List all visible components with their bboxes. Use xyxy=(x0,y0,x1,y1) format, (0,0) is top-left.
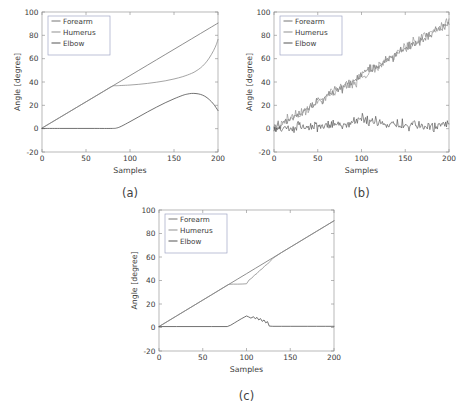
x-tick-label: 200 xyxy=(327,353,341,362)
x-axis-title: Samples xyxy=(113,166,146,175)
x-tick-label: 100 xyxy=(239,353,253,362)
y-tick-label: 0 xyxy=(151,323,156,332)
y-axis-title: Angle [degree] xyxy=(13,53,22,111)
legend-label-forearm: Forearm xyxy=(63,17,93,26)
y-tick-label: 20 xyxy=(146,300,156,309)
legend: ForearmHumerusElbow xyxy=(48,16,110,55)
figure-bottom-caption xyxy=(0,397,463,409)
legend-label-forearm: Forearm xyxy=(180,215,210,224)
legend-label-elbow: Elbow xyxy=(295,39,316,48)
y-tick-label: 0 xyxy=(266,124,271,133)
x-tick-label: 50 xyxy=(81,154,91,163)
x-tick-label: 100 xyxy=(354,154,368,163)
y-tick-label: -20 xyxy=(26,148,38,157)
subplot-caption-b: (b) xyxy=(353,186,369,200)
x-tick-label: 150 xyxy=(398,154,412,163)
y-tick-label: 60 xyxy=(146,253,156,262)
y-tick-label: 100 xyxy=(141,206,155,215)
x-tick-label: 150 xyxy=(167,154,181,163)
subplot-b: 050100150200-20020406080100SamplesAngle … xyxy=(232,2,463,200)
y-tick-label: 0 xyxy=(34,124,39,133)
plot-a: 050100150200-20020406080100SamplesAngle … xyxy=(0,2,232,200)
x-tick-label: 0 xyxy=(40,154,45,163)
figure-root: 050100150200-20020406080100SamplesAngle … xyxy=(0,0,463,409)
x-tick-label: 50 xyxy=(313,154,323,163)
legend: ForearmHumerusElbow xyxy=(280,16,342,55)
x-tick-label: 200 xyxy=(442,154,456,163)
y-tick-label: 20 xyxy=(29,101,39,110)
x-tick-label: 0 xyxy=(272,154,277,163)
legend-label-humerus: Humerus xyxy=(63,28,96,37)
x-tick-label: 200 xyxy=(211,154,225,163)
y-tick-label: 100 xyxy=(256,8,270,17)
y-tick-label: 80 xyxy=(261,31,271,40)
subplot-c: 050100150200-20020406080100SamplesAngle … xyxy=(115,198,350,403)
y-tick-label: 40 xyxy=(261,78,271,87)
plot-b: 050100150200-20020406080100SamplesAngle … xyxy=(232,2,463,200)
legend-label-forearm: Forearm xyxy=(295,17,325,26)
x-axis-title: Samples xyxy=(345,166,378,175)
y-tick-label: 20 xyxy=(261,101,271,110)
y-tick-label: -20 xyxy=(143,347,155,356)
legend-label-elbow: Elbow xyxy=(180,237,201,246)
y-tick-label: 80 xyxy=(146,229,156,238)
y-tick-label: -20 xyxy=(258,148,270,157)
legend-label-humerus: Humerus xyxy=(295,28,328,37)
y-tick-label: 40 xyxy=(146,276,156,285)
x-tick-label: 100 xyxy=(123,154,137,163)
y-tick-label: 60 xyxy=(261,54,271,63)
legend-label-elbow: Elbow xyxy=(63,39,84,48)
y-tick-label: 100 xyxy=(24,8,38,17)
x-tick-label: 150 xyxy=(283,353,297,362)
x-tick-label: 0 xyxy=(157,353,162,362)
y-tick-label: 60 xyxy=(29,54,39,63)
y-tick-label: 80 xyxy=(29,31,39,40)
subplot-a: 050100150200-20020406080100SamplesAngle … xyxy=(0,2,232,200)
x-tick-label: 50 xyxy=(198,353,208,362)
x-axis-title: Samples xyxy=(230,365,263,374)
legend: ForearmHumerusElbow xyxy=(165,214,227,253)
legend-label-humerus: Humerus xyxy=(180,226,213,235)
y-tick-label: 40 xyxy=(29,78,39,87)
y-axis-title: Angle [degree] xyxy=(130,251,139,309)
plot-c: 050100150200-20020406080100SamplesAngle … xyxy=(115,198,350,403)
y-axis-title: Angle [degree] xyxy=(245,53,254,111)
